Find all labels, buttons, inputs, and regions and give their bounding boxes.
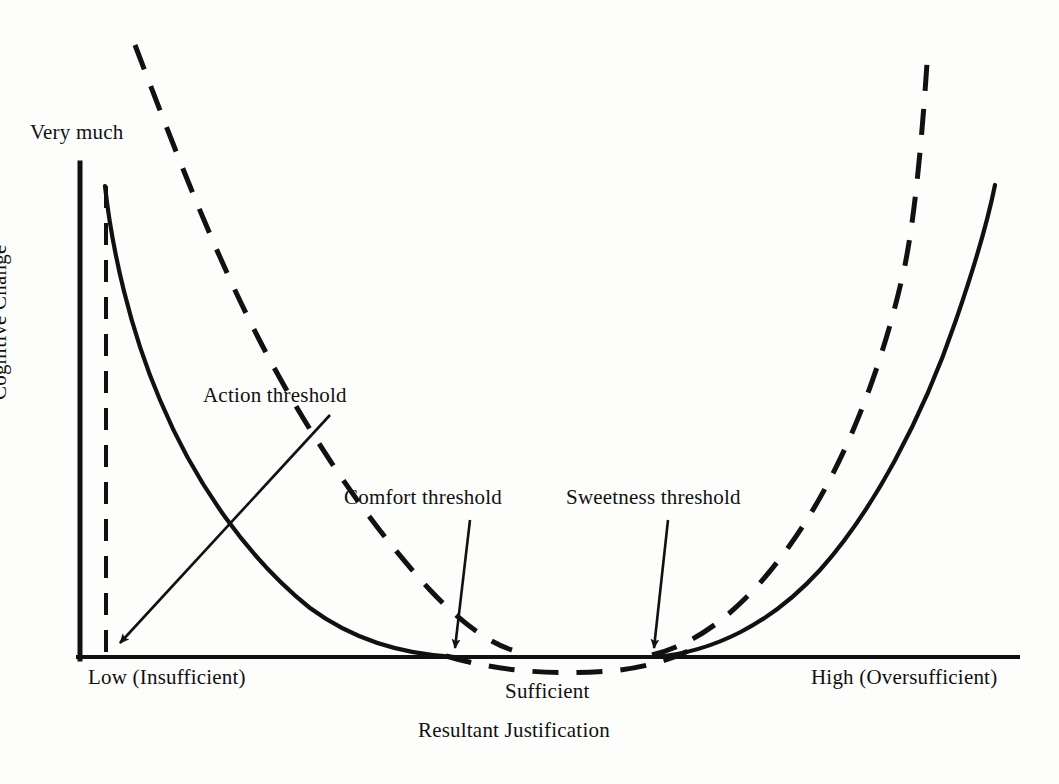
solid-curve-left [105, 186, 455, 657]
dashed-curve-right [652, 48, 928, 655]
figure-root: Very much Cognitive Change Action thresh… [0, 0, 1059, 784]
x-axis-title: Resultant Justification [418, 718, 610, 743]
annotation-action-threshold: Action threshold [203, 383, 347, 408]
dashed-curve-left [135, 45, 512, 650]
solid-curve-right [655, 185, 995, 657]
x-axis-tick-label-low: Low (Insufficient) [88, 665, 246, 690]
annotation-comfort-threshold: Comfort threshold [344, 485, 502, 510]
y-axis-title: Cognitive Change [0, 190, 12, 400]
action-threshold-arrow [120, 415, 330, 643]
sweetness-threshold-arrow [654, 520, 668, 648]
x-axis-tick-label-high: High (Oversufficient) [811, 665, 997, 690]
y-axis-top-tick-label: Very much [30, 120, 123, 145]
comfort-threshold-arrow [455, 520, 470, 648]
annotation-sweetness-threshold: Sweetness threshold [566, 485, 741, 510]
x-axis-tick-label-sufficient: Sufficient [505, 679, 589, 704]
